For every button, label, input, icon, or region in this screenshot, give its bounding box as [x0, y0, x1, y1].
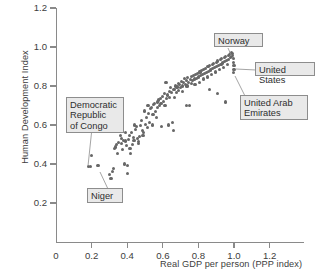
- y-ticklabel-0.6: 0.6: [17, 119, 47, 130]
- data-point: [124, 131, 127, 134]
- data-point: [146, 126, 149, 129]
- data-point: [216, 92, 219, 95]
- data-point: [190, 82, 193, 85]
- x-ticklabel-0.2: 0.2: [77, 250, 107, 261]
- data-point: [147, 112, 150, 115]
- data-point: [151, 113, 154, 116]
- callout-niger[interactable]: Niger: [87, 188, 123, 203]
- data-point: [126, 164, 129, 167]
- x-tick-0.4: [127, 242, 128, 248]
- y-ticklabel-1: 1.0: [17, 41, 47, 52]
- data-point: [168, 96, 171, 99]
- y-ticklabel-0.4: 0.4: [17, 158, 47, 169]
- x-ticklabel-0.6: 0.6: [148, 250, 178, 261]
- data-point: [185, 104, 188, 107]
- data-point: [218, 68, 221, 71]
- data-point: [172, 129, 175, 132]
- y-tick-0.4: [50, 163, 56, 164]
- data-point: [145, 116, 148, 119]
- x-axis-line: [56, 242, 304, 243]
- data-point: [181, 90, 184, 93]
- scatter-chart-figure: Human Development Index Real GDP per per…: [0, 0, 315, 277]
- data-point: [96, 164, 99, 167]
- callout-democratic-republic-of-congo[interactable]: Democratic Republic of Congo: [66, 97, 124, 133]
- leader-line-uae: [235, 76, 245, 96]
- y-tick-0.6: [50, 124, 56, 125]
- x-ticklabel-0.4: 0.4: [112, 250, 142, 261]
- data-point: [112, 167, 115, 170]
- data-point: [137, 140, 140, 143]
- data-point: [150, 106, 153, 109]
- data-point: [188, 104, 191, 107]
- data-point: [130, 131, 133, 134]
- data-point: [89, 165, 92, 168]
- data-point: [121, 148, 124, 151]
- data-point: [206, 75, 209, 78]
- data-point: [232, 71, 235, 74]
- data-point: [185, 84, 188, 87]
- data-point: [128, 134, 131, 137]
- data-point: [226, 63, 229, 66]
- data-point: [214, 70, 217, 73]
- data-point: [173, 96, 176, 99]
- x-tick-1: [233, 242, 234, 248]
- y-tick-1.2: [50, 7, 56, 8]
- data-point: [116, 152, 119, 155]
- annotation-leader-lines: [0, 0, 315, 277]
- callout-united-arab-emirates[interactable]: United Arab Emirates: [240, 95, 308, 120]
- data-point: [151, 123, 154, 126]
- data-point: [131, 143, 134, 146]
- data-point: [129, 152, 132, 155]
- data-point: [120, 142, 123, 145]
- data-point: [170, 91, 173, 94]
- leader-line-united-states: [236, 69, 256, 70]
- data-point: [171, 121, 174, 124]
- data-point: [208, 88, 211, 91]
- x-ticklabel-1: 1.0: [219, 250, 249, 261]
- y-tick-1: [50, 46, 56, 47]
- callout-united-states[interactable]: United States: [255, 62, 315, 76]
- y-tick-0.8: [50, 85, 56, 86]
- callout-norway[interactable]: Norway: [214, 33, 263, 47]
- data-point: [224, 100, 227, 103]
- data-point: [109, 177, 112, 180]
- data-point: [161, 95, 164, 98]
- data-point: [167, 123, 170, 126]
- data-point: [232, 61, 235, 64]
- data-point: [142, 131, 145, 134]
- data-point: [160, 125, 163, 128]
- x-ticklabel-1.2: 1.2: [255, 250, 285, 261]
- data-point: [141, 134, 144, 137]
- x-tick-0.2: [91, 242, 92, 248]
- y-ticklabel-0.8: 0.8: [17, 80, 47, 91]
- y-ticklabel-1.2: 1.2: [17, 2, 47, 13]
- x-tick-1.2: [269, 242, 270, 248]
- leader-line-niger: [100, 172, 108, 189]
- data-point: [162, 100, 165, 103]
- data-point: [127, 138, 130, 141]
- data-point: [198, 81, 201, 84]
- data-point: [193, 83, 196, 86]
- x-ticklabel-0: 0: [41, 250, 71, 261]
- data-point: [126, 172, 129, 175]
- data-point: [90, 154, 93, 157]
- data-point: [143, 109, 146, 112]
- y-ticklabel-0.2: 0.2: [17, 197, 47, 208]
- data-point: [128, 147, 131, 150]
- x-ticklabel-0.8: 0.8: [183, 250, 213, 261]
- data-point: [177, 89, 180, 92]
- data-point: [232, 57, 235, 60]
- y-axis-line: [56, 8, 57, 243]
- data-point: [139, 124, 142, 127]
- data-point: [134, 128, 137, 131]
- leader-line-drc: [88, 128, 92, 166]
- data-point: [210, 73, 213, 76]
- data-point: [155, 116, 158, 119]
- data-point: [140, 119, 143, 122]
- data-point: [222, 66, 225, 69]
- data-point: [202, 77, 205, 80]
- data-point: [111, 170, 114, 173]
- data-point: [132, 139, 135, 142]
- y-tick-0.2: [50, 202, 56, 203]
- data-point: [164, 81, 167, 84]
